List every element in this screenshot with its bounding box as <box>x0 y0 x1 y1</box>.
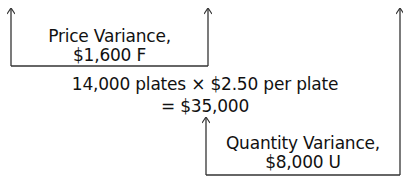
formula-text: 14,000 plates × $2.50 per plate <box>60 74 350 94</box>
formula-result: = $35,000 <box>120 96 290 116</box>
quantity-variance-amount: $8,000 U <box>206 152 400 172</box>
price-variance-title: Price Variance, <box>11 26 208 46</box>
price-variance-amount: $1,600 F <box>11 45 208 65</box>
quantity-variance-title: Quantity Variance, <box>206 133 400 153</box>
